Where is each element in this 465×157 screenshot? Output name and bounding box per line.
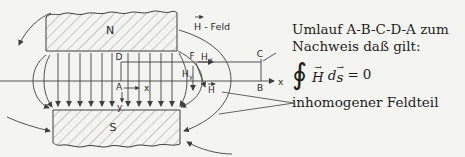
point-c-label: C (257, 49, 263, 59)
fringing-field-left (7, 13, 52, 131)
north-pole-label: N (106, 24, 114, 37)
caption-line1: Umlauf A-B-C-D-A zum (292, 21, 462, 38)
integration-loop (121, 53, 276, 81)
local-x-label: x (144, 83, 150, 93)
contour-integral-symbol: ∮ (292, 60, 307, 89)
local-y-label: y (117, 102, 123, 112)
s-vector-symbol: s (336, 71, 343, 85)
leader-lines (219, 92, 294, 114)
caption: Umlauf A-B-C-D-A zum Nachweis daß gilt: … (292, 21, 462, 111)
s-vector-term: → s (336, 64, 343, 85)
zero-value: 0 (363, 66, 372, 83)
differential-d: d (328, 67, 337, 84)
equals-sign: = (347, 66, 358, 83)
point-b-label: B (257, 83, 263, 93)
south-pole-label: S (110, 121, 117, 134)
south-pole-block (53, 110, 180, 147)
ds-term: d → s (328, 64, 344, 85)
caption-line2: Nachweis daß gilt: (292, 38, 462, 55)
hy-subscript: y (189, 73, 193, 81)
hy-label: H (182, 69, 189, 79)
h-vector-symbol: H (312, 71, 324, 85)
hx-subscript: x (209, 56, 213, 64)
point-f-label: F (189, 51, 194, 61)
h-vector-term: → H (312, 64, 324, 85)
hx-label: H (201, 52, 208, 62)
h-feld-label: H - Feld (194, 21, 230, 32)
point-a-label: A (116, 82, 123, 92)
formula-line: ∮ → H d → s = 0 (292, 56, 462, 92)
x-axis-label: x (278, 77, 284, 87)
point-d-label: D (116, 52, 123, 62)
local-axes-at-a (122, 88, 139, 102)
caption-line4: inhomogener Feldteil (292, 94, 462, 111)
figure-magnetic-field-diagram: N S (0, 0, 465, 157)
h-vector-label: H (208, 85, 215, 95)
